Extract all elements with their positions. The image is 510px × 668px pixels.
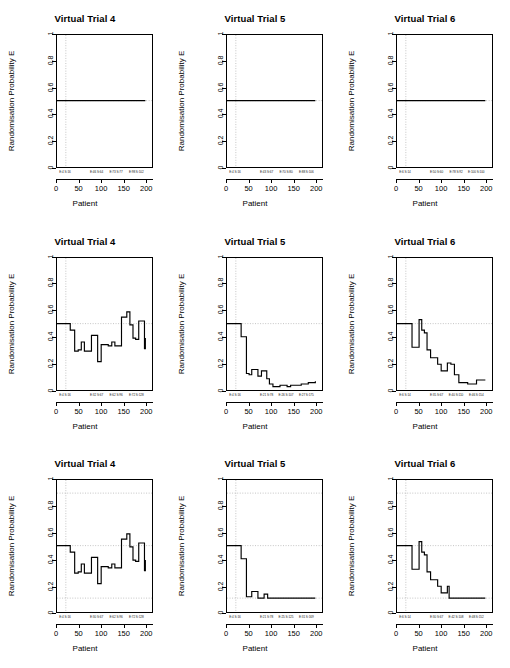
y-tick-label: 0.8 [48, 55, 55, 65]
y-tick-label: 0.4 [218, 554, 225, 564]
y-tick-label: 0.2 [388, 581, 395, 591]
x-tick-label: 200 [310, 408, 323, 416]
annotation-label: E:62 S:96 [109, 391, 122, 400]
plot-area [226, 34, 323, 168]
annotation-label: E:4 S:16 [59, 613, 70, 622]
x-tick-mark [419, 624, 420, 628]
x-axis-title: Patient [170, 423, 340, 431]
plot-canvas [227, 480, 322, 611]
x-tick-label: 0 [224, 630, 228, 638]
x-tick-mark [124, 179, 125, 183]
x-tick-mark [101, 402, 102, 406]
y-tick-label: 0.4 [48, 554, 55, 564]
x-tick-mark [316, 624, 317, 628]
y-tick-label: 0.4 [388, 554, 395, 564]
y-tick-label: 0.6 [48, 305, 55, 315]
y-tick-label: 0.6 [388, 305, 395, 315]
x-tick-mark [56, 624, 57, 628]
data-series-line [397, 319, 485, 383]
y-tick-label: 0.2 [218, 358, 225, 368]
x-tick-mark [464, 402, 465, 406]
x-tick-label: 150 [117, 408, 130, 416]
plot-canvas [227, 258, 322, 389]
x-tick-mark [486, 624, 487, 628]
annotation-label: E:26 S:107 [279, 391, 294, 400]
x-tick-mark [226, 624, 227, 628]
annotation-label: E:50 S:60 [430, 168, 443, 177]
x-tick-mark [271, 624, 272, 628]
x-tick-mark [486, 179, 487, 183]
x-axis-title: Patient [0, 423, 170, 431]
annotation-label: E:100 S:100 [468, 168, 484, 177]
annotation-label: E:30 S:67 [90, 613, 103, 622]
y-axis-title: Randomisation Probability E [176, 479, 188, 613]
y-axis: 00.20.40.60.81 [212, 34, 226, 168]
y-tick-label: 0.2 [218, 136, 225, 146]
y-tick-label: 1 [388, 32, 395, 36]
x-tick-mark [464, 624, 465, 628]
annotation-label: E:6 S:14 [399, 168, 410, 177]
y-tick-label: 0 [218, 166, 225, 170]
x-axis-line [56, 179, 153, 180]
annotation-label: E:4 S:16 [229, 613, 240, 622]
x-axis-title: Patient [170, 200, 340, 208]
x-tick-mark [249, 624, 250, 628]
annotation-label: E:6 S:14 [399, 613, 410, 622]
x-tick-label: 150 [117, 630, 130, 638]
annotation-label: E:72 S:128 [129, 391, 144, 400]
x-tick-label: 100 [265, 630, 278, 638]
x-tick-label: 0 [224, 185, 228, 193]
x-tick-label: 100 [435, 630, 448, 638]
annotation-label: E:48 S:152 [469, 613, 484, 622]
y-tick-label: 0.2 [388, 358, 395, 368]
panel-title: Virtual Trial 6 [340, 459, 510, 469]
annotation-row: E:6 S:14E:30 S:67E:42 S:108E:48 S:152 [396, 613, 493, 622]
y-tick-label: 0.4 [388, 332, 395, 342]
plot-panel: Virtual Trial 4Randomisation Probability… [0, 223, 170, 446]
panel-title: Virtual Trial 5 [170, 459, 340, 469]
plot-area [56, 257, 153, 391]
x-tick-mark [271, 179, 272, 183]
x-tick-label: 50 [244, 408, 252, 416]
data-series-line [397, 542, 485, 598]
y-axis-title-text: Randomisation Probability E [8, 51, 16, 152]
x-tick-mark [249, 179, 250, 183]
x-tick-mark [486, 402, 487, 406]
y-axis: 00.20.40.60.81 [212, 479, 226, 613]
data-series-line [227, 546, 315, 598]
x-axis-line [396, 624, 493, 625]
x-tick-label: 150 [457, 408, 470, 416]
x-tick-mark [441, 624, 442, 628]
y-axis: 00.20.40.60.81 [212, 257, 226, 391]
y-axis: 00.20.40.60.81 [42, 34, 56, 168]
x-tick-mark [294, 402, 295, 406]
plot-area [396, 34, 493, 168]
y-tick-label: 0.2 [218, 581, 225, 591]
y-axis: 00.20.40.60.81 [42, 257, 56, 391]
y-tick-label: 0 [388, 166, 395, 170]
plot-panel: Virtual Trial 5Randomisation Probability… [170, 223, 340, 446]
panel-title: Virtual Trial 5 [170, 237, 340, 247]
annotation-row: E:4 S:16E:21 S:78E:26 S:107E:27 S:175 [226, 391, 323, 400]
annotation-label: E:70 S:80 [279, 168, 292, 177]
plot-canvas [57, 258, 152, 389]
x-tick-label: 0 [394, 408, 398, 416]
y-tick-label: 0.8 [218, 278, 225, 288]
plot-panel: Virtual Trial 6Randomisation Probability… [340, 0, 510, 223]
y-tick-label: 0.6 [48, 82, 55, 92]
x-tick-label: 0 [394, 185, 398, 193]
annotation-label: E:27 S:175 [299, 391, 314, 400]
x-tick-label: 50 [244, 185, 252, 193]
y-tick-label: 0.6 [218, 305, 225, 315]
x-tick-label: 100 [265, 185, 278, 193]
y-axis-title: Randomisation Probability E [176, 257, 188, 391]
x-tick-mark [271, 402, 272, 406]
y-tick-label: 0 [218, 611, 225, 615]
panel-title: Virtual Trial 5 [170, 14, 340, 24]
y-axis-title-text: Randomisation Probability E [178, 496, 186, 597]
y-axis-title: Randomisation Probability E [6, 34, 18, 168]
y-tick-label: 0.8 [48, 501, 55, 511]
y-axis-title-text: Randomisation Probability E [8, 273, 16, 374]
annotation-label: E:88 S:106 [299, 168, 314, 177]
y-tick-label: 0.8 [388, 55, 395, 65]
